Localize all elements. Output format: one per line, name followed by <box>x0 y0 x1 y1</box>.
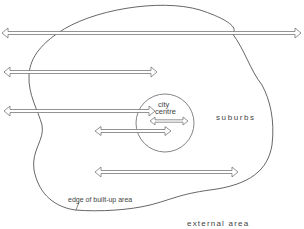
arrow-suburb-suburb <box>95 167 238 177</box>
diagram-canvas <box>0 0 304 229</box>
edge-of-built-up-area-label: edge of built-up area <box>68 196 132 203</box>
arrow-suburb-centre <box>95 127 171 136</box>
arrow-centre-external <box>4 106 155 116</box>
arrow-suburb-external-upper <box>4 67 157 77</box>
arrow-within-centre <box>150 117 188 125</box>
external-area-label: external area <box>187 219 249 228</box>
arrow-through-traffic <box>2 28 301 38</box>
edge-label-leader <box>76 202 79 210</box>
suburbs-label: suburbs <box>216 113 256 122</box>
urban-traffic-diagram: city centre suburbs edge of built-up are… <box>0 0 304 229</box>
city-centre-label: city centre <box>155 101 176 115</box>
city-centre-label-line2: centre <box>155 108 176 115</box>
